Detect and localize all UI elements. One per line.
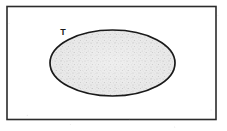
diagram-canvas: T (0, 0, 227, 131)
ellipse-label-t: T (60, 27, 66, 37)
region-t (50, 30, 175, 96)
figure-container: T (0, 0, 227, 131)
